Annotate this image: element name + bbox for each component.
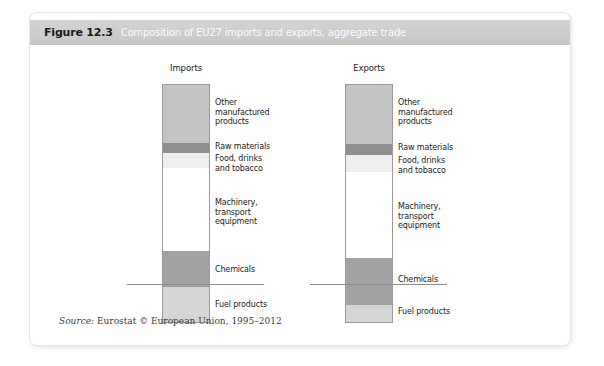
chart-heading-exports: Exports bbox=[345, 63, 393, 73]
segment-label: Chemicals bbox=[398, 275, 438, 285]
segment-label: Other manufactured products bbox=[398, 98, 452, 127]
bar-segment bbox=[345, 144, 393, 155]
segment-label: Raw materials bbox=[215, 142, 270, 152]
stacked-bar-imports bbox=[162, 84, 210, 323]
segment-label: Other manufactured products bbox=[215, 98, 269, 127]
segment-label: Machinery, transport equipment bbox=[398, 202, 441, 231]
segment-label: Food, drinks and tobacco bbox=[215, 154, 263, 173]
bar-segment bbox=[345, 155, 393, 172]
bar-segment bbox=[345, 172, 393, 258]
bar-segment bbox=[162, 84, 210, 143]
segment-label: Machinery, transport equipment bbox=[215, 198, 258, 227]
segment-label: Fuel products bbox=[215, 300, 267, 310]
figure-header-band: Figure 12.3 Composition of EU27 imports … bbox=[30, 20, 570, 45]
bar-segment bbox=[162, 153, 210, 168]
stacked-bar-exports bbox=[345, 84, 393, 323]
bar-segment bbox=[162, 168, 210, 251]
source-text: Eurostat © European Union, 1995–2012 bbox=[97, 316, 282, 326]
bar-segment bbox=[345, 84, 393, 144]
chart-heading-imports: Imports bbox=[162, 63, 210, 73]
figure-card: Figure 12.3 Composition of EU27 imports … bbox=[30, 13, 570, 345]
bar-segment bbox=[345, 258, 393, 305]
bar-segment bbox=[345, 305, 393, 323]
segment-label: Raw materials bbox=[398, 143, 453, 153]
figure-number: Figure 12.3 bbox=[44, 26, 113, 39]
source-label: Source: bbox=[59, 316, 94, 326]
segment-label: Chemicals bbox=[215, 265, 255, 275]
segment-label: Fuel products bbox=[398, 307, 450, 317]
chart-column-exports: Exports Other manufactured productsRaw m… bbox=[308, 45, 548, 313]
bar-segment bbox=[162, 251, 210, 287]
chart-plot-area: Imports Other manufactured productsRaw m… bbox=[30, 45, 570, 313]
source-line: Source: Eurostat © European Union, 1995–… bbox=[59, 316, 282, 326]
bar-segment bbox=[162, 143, 210, 153]
figure-title: Composition of EU27 imports and exports,… bbox=[121, 27, 406, 38]
segment-label: Food, drinks and tobacco bbox=[398, 156, 446, 175]
baseline-rule-imports bbox=[127, 284, 264, 285]
